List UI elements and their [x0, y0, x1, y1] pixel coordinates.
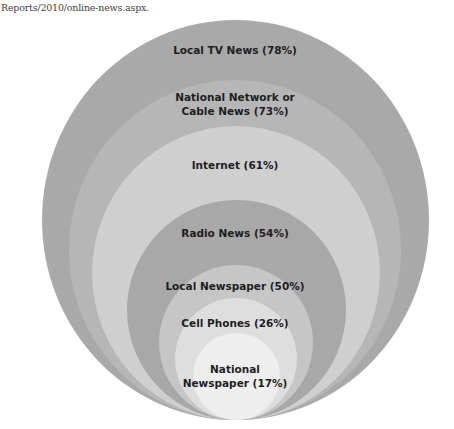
label-local-tv-news: Local TV News (78%): [135, 43, 335, 57]
label-cell-phones: Cell Phones (26%): [135, 316, 335, 330]
label-line: National: [135, 362, 335, 376]
label-national-newspaper: National Newspaper (17%): [135, 362, 335, 390]
label-local-newspaper: Local Newspaper (50%): [135, 279, 335, 293]
label-line: Newspaper (17%): [135, 376, 335, 390]
label-line: National Network or: [135, 90, 335, 104]
label-line: Cable News (73%): [135, 104, 335, 118]
label-internet: Internet (61%): [135, 158, 335, 172]
source-citation: Reports/2010/online-news.aspx.: [1, 2, 149, 13]
label-radio-news: Radio News (54%): [135, 226, 335, 240]
label-national-network-cable-news: National Network or Cable News (73%): [135, 90, 335, 118]
